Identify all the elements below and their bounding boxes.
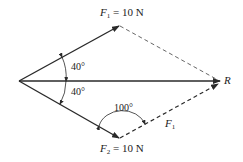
angle-arc-upper <box>62 57 66 81</box>
angle-upper-label: 40° <box>71 62 85 72</box>
angle-lower-label: 40° <box>71 87 85 97</box>
resultant-label: R <box>224 75 231 86</box>
f2-label: F2 = 10 N <box>100 143 144 156</box>
translated-f1-subscript: 1 <box>172 123 176 131</box>
f2-value: = 10 N <box>110 142 143 154</box>
angle-arc-lower <box>60 81 66 104</box>
angle-100-label: 100° <box>114 103 133 113</box>
f1-value: = 10 N <box>110 6 143 18</box>
translated-f1-symbol: F <box>165 117 172 129</box>
f2-symbol: F <box>100 142 107 154</box>
f1-vector <box>19 26 119 81</box>
f2-vector <box>19 81 119 138</box>
f1-label: F1 = 10 N <box>100 7 144 20</box>
translated-f1-label: F1 <box>165 118 175 131</box>
parallelogram-side-upper <box>120 26 218 80</box>
vector-diagram <box>0 0 243 162</box>
f1-symbol: F <box>100 6 107 18</box>
